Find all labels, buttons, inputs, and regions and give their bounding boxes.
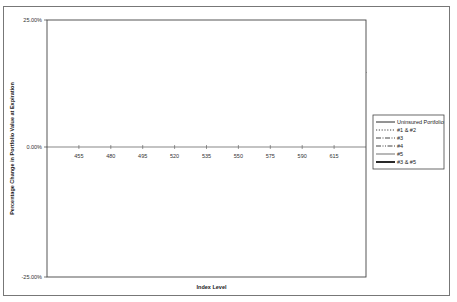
y-tick-label: -25.00% (22, 274, 43, 280)
x-tick-label: 535 (202, 153, 211, 159)
legend-label: #4 (397, 143, 403, 149)
x-axis-title: Index Level (197, 284, 227, 290)
legend-label: Uninsured Portfolio (397, 119, 444, 125)
x-tick-label: 550 (234, 153, 243, 159)
y-axis-title: Percentage Change in Portfolio Value at … (9, 82, 15, 215)
legend: Uninsured Portfolio#1 & #2#3#4#5#3 & #5 (373, 115, 444, 169)
y-tick-label: 0.00% (26, 144, 42, 150)
x-tick-label: 615 (330, 153, 339, 159)
y-tick-label: 25.00% (23, 17, 42, 23)
chart-canvas: 25.00%0.00%-25.00%4554804955205355505755… (0, 0, 457, 302)
x-tick-label: 520 (170, 153, 179, 159)
legend-label: #3 & #5 (397, 159, 416, 165)
x-tick-label: 455 (74, 153, 83, 159)
x-tick-label: 480 (106, 153, 115, 159)
legend-label: #3 (397, 135, 403, 141)
legend-label: #5 (397, 151, 403, 157)
x-tick-label: 575 (266, 153, 275, 159)
x-tick-label: 495 (138, 153, 147, 159)
legend-label: #1 & #2 (397, 127, 416, 133)
axes: 25.00%0.00%-25.00%4554804955205355505755… (9, 17, 366, 290)
x-tick-label: 590 (298, 153, 307, 159)
